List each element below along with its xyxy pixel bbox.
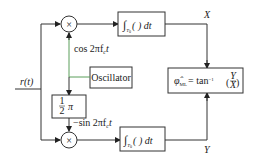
x-label: X (203, 9, 211, 20)
multiply-icon: × (66, 135, 72, 146)
block-diagram: r(t) × × Oscillator cos 2πfct 1 2 π −sin… (0, 0, 261, 158)
top-multiplier: × (61, 16, 77, 32)
multiply-icon: × (66, 19, 72, 30)
oscillator-label: Oscillator (91, 72, 131, 83)
bottom-multiplier: × (61, 132, 77, 148)
right-paren: ) (236, 77, 239, 89)
cos-line (69, 33, 90, 77)
input-label: r(t) (20, 76, 34, 88)
cos-label: cos 2πfct (74, 43, 109, 55)
sin-label: −sin 2πfct (73, 117, 112, 129)
y-label: Y (204, 144, 211, 155)
y-line (165, 93, 207, 140)
phase-shift-den: 2 (60, 105, 65, 116)
x-line (165, 24, 207, 68)
